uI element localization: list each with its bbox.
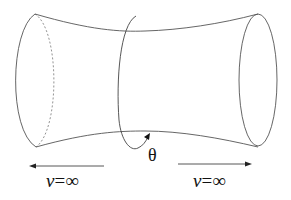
left-end-front xyxy=(16,14,36,147)
left-end-hidden xyxy=(35,14,54,147)
right-value: ∞ xyxy=(212,170,226,191)
left-eq: = xyxy=(54,170,65,191)
left-end-label: v=∞ xyxy=(46,170,79,192)
left-arrowhead-icon xyxy=(29,164,36,169)
theta-loop xyxy=(118,16,148,149)
tube-diagram xyxy=(0,0,291,200)
right-eq: = xyxy=(201,170,212,191)
right-end xyxy=(239,14,277,146)
right-end-label: v=∞ xyxy=(193,170,226,192)
right-arrowhead-icon xyxy=(245,162,252,167)
top-profile xyxy=(35,14,258,31)
theta-label: θ xyxy=(148,145,157,166)
left-value: ∞ xyxy=(65,170,79,191)
